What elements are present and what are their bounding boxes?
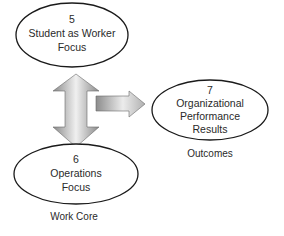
- node-student-as-worker: 5 Student as Worker Focus: [16, 3, 128, 67]
- node-performance-line2: Performance: [180, 110, 240, 122]
- node-organizational-performance: 7 Organizational Performance Results: [152, 80, 268, 140]
- bidirectional-arrow-icon: [53, 74, 99, 147]
- node-operations: 6 Operations Focus: [14, 144, 138, 204]
- node-performance-line3: Results: [192, 123, 227, 135]
- node-performance-line1: Organizational: [176, 97, 244, 109]
- node-operations-number: 6: [73, 153, 79, 165]
- diagram: 5 Student as Worker Focus 7 Organization…: [0, 0, 284, 236]
- caption-work-core: Work Core: [50, 211, 98, 222]
- node-performance-number: 7: [207, 84, 213, 96]
- node-student-line2: Focus: [58, 41, 87, 53]
- caption-outcomes: Outcomes: [187, 148, 233, 159]
- node-student-number: 5: [69, 13, 75, 25]
- node-operations-line2: Focus: [62, 181, 91, 193]
- right-arrow-icon: [96, 91, 145, 117]
- node-student-line1: Student as Worker: [29, 27, 116, 39]
- node-operations-line1: Operations: [50, 167, 101, 179]
